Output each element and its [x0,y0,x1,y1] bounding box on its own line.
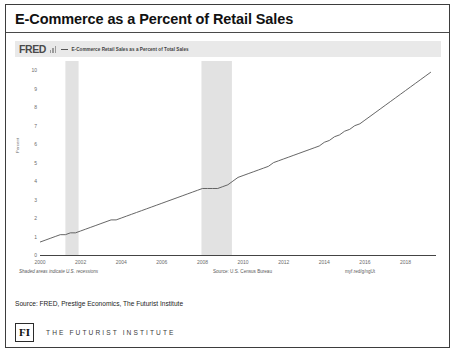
y-axis-tick-label: 3 [23,197,37,203]
y-axis-tick-label: 8 [23,104,37,110]
fred-short-url[interactable]: myf.red/g/ngUt [345,269,375,274]
x-axis-tick-label: 2014 [319,259,330,265]
page-title: E-Commerce as a Percent of Retail Sales [6,11,293,27]
y-axis-tick-label: 0 [23,252,37,258]
slide-source-note: Source: FRED, Prestige Economics, The Fu… [15,300,183,307]
chart-legend-label: E-Commerce Retail Sales as a Percent of … [71,47,188,52]
x-axis-tick-label: 2018 [400,259,411,265]
futurist-institute-logo: FI [15,323,34,342]
x-axis-tick-label: 2002 [75,259,86,265]
y-axis-tick-label: 9 [23,86,37,92]
y-axis-tick-label: 2 [23,215,37,221]
fred-logo: FRED [15,44,46,55]
x-axis-tick-label: 2000 [34,259,45,265]
y-axis-tick-label: 6 [23,141,37,147]
y-axis-tick-label: 7 [23,123,37,129]
x-axis-tick-label: 2004 [116,259,127,265]
y-axis-tick-label: 5 [23,160,37,166]
recession-band [201,61,231,255]
brand-name: THE FUTURIST INSTITUTE [46,329,176,336]
x-axis-tick-label: 2006 [156,259,167,265]
brand-footer: FI THE FUTURIST INSTITUTE [15,321,176,343]
bar-chart-icon [50,45,57,53]
data-series-line [40,72,431,242]
y-axis-tick-label: 4 [23,178,37,184]
data-source-note: Source: U.S. Census Bureau [213,269,272,274]
line-chart-svg [40,61,436,255]
title-bar: E-Commerce as a Percent of Retail Sales [6,5,449,33]
recession-band [65,61,78,255]
recession-note: Shaded areas indicate U.S. recessions [19,269,98,274]
x-axis-tick-label: 2012 [278,259,289,265]
legend-swatch-icon [61,49,68,50]
x-axis-tick-label: 2010 [238,259,249,265]
slide-frame: E-Commerce as a Percent of Retail Sales … [5,4,450,348]
x-axis-line [40,255,436,256]
x-axis-tick-label: 2008 [197,259,208,265]
fred-chart-panel: FRED E-Commerce Retail Sales as a Percen… [15,41,441,295]
plot-area: Percent 012345678910 2000200220042006200… [15,57,441,295]
y-axis-tick-label: 1 [23,234,37,240]
fred-chart-header: FRED E-Commerce Retail Sales as a Percen… [15,41,441,57]
x-axis-tick-label: 2016 [359,259,370,265]
y-axis-tick-label: 10 [23,67,37,73]
y-axis-title: Percent [15,138,20,153]
fred-chart-footer: Shaded areas indicate U.S. recessions So… [15,269,441,283]
